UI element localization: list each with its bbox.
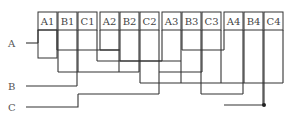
terminal-b2: B2 [120,12,139,30]
terminal-label: A3 [164,16,179,27]
terminal-row: A1 B1 C1 A2 B2 C2 A3 B3 C3 A4 B4 C4 [38,12,283,58]
input-label-c: C [8,102,16,113]
terminal-label: B4 [247,16,261,27]
terminal-label: A1 [40,16,55,27]
terminal-leads [38,30,283,105]
terminal-label: B1 [61,16,75,27]
terminal-label: B2 [123,16,137,27]
terminal-label: A2 [102,16,117,27]
terminal-label: C2 [142,16,156,27]
terminal-a2: A2 [100,12,119,30]
junction-dot [262,103,266,107]
terminal-label: B3 [185,16,199,27]
terminal-b3: B3 [182,12,201,30]
terminal-label: C3 [204,16,218,27]
terminal-c4: C4 [264,12,283,30]
terminal-c2: C2 [140,12,159,30]
wiring-diagram: A1 B1 C1 A2 B2 C2 A3 B3 C3 A4 B4 C4 [0,0,302,119]
input-label-b: B [8,81,15,92]
terminal-label: C1 [80,16,94,27]
terminal-c3: C3 [202,12,221,30]
terminal-label: A4 [226,16,241,27]
terminal-b4: B4 [244,12,263,30]
terminal-a4: A4 [224,12,243,30]
terminal-a1: A1 [38,12,57,58]
wire-c-input [26,94,78,107]
terminal-label: C4 [266,16,280,27]
terminal-a3: A3 [162,12,181,30]
terminal-c1: C1 [78,12,97,30]
terminal-b1: B1 [58,12,77,30]
input-label-a: A [7,38,16,49]
